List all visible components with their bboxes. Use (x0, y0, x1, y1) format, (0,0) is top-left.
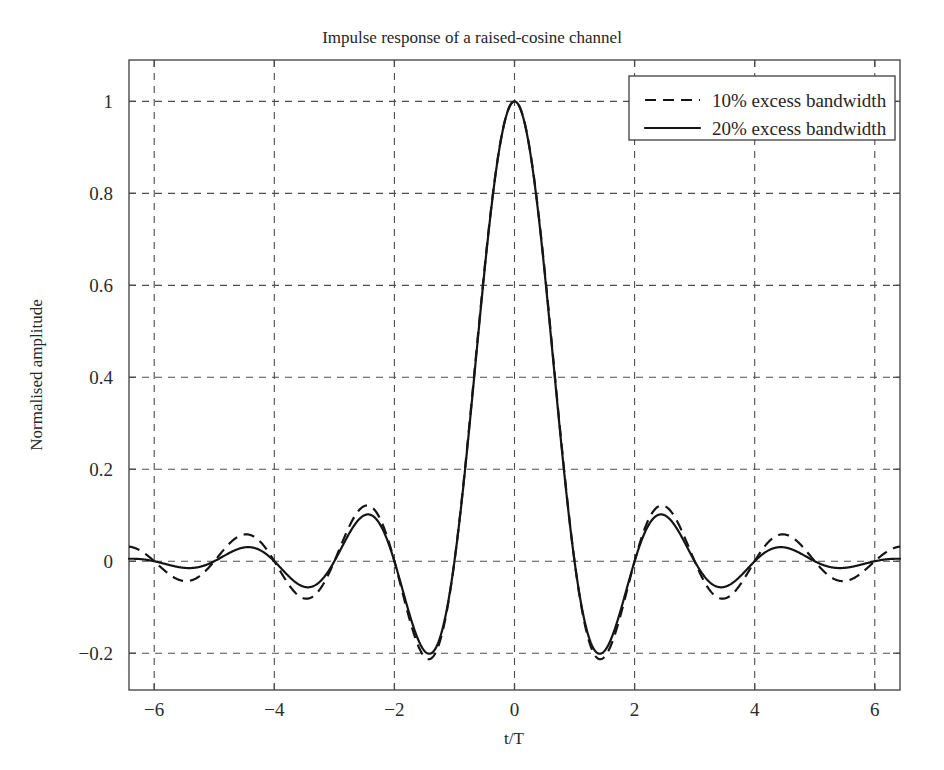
x-axis-label: t/T (504, 729, 524, 748)
x-tick-label: −4 (264, 699, 285, 720)
legend-label-10pct: 10% excess bandwidth (712, 90, 887, 111)
y-tick-label: 1 (104, 91, 114, 112)
y-tick-label: 0.8 (89, 183, 113, 204)
y-tick-label: 0 (104, 551, 114, 572)
y-axis-label: Normalised amplitude (27, 299, 46, 451)
x-tick-labels: −6−4−20246 (144, 699, 879, 720)
series-line-10pct (129, 101, 900, 659)
x-tick-label: 0 (510, 699, 520, 720)
chart-canvas: −6−4−20246 −0.200.20.40.60.81 Impulse re… (0, 0, 944, 770)
x-tick-label: −6 (144, 699, 164, 720)
y-tick-label: 0.2 (89, 459, 113, 480)
chart-title: Impulse response of a raised-cosine chan… (322, 28, 622, 47)
y-tick-label: 0.6 (89, 275, 113, 296)
grid-lines (129, 60, 900, 690)
y-tick-labels: −0.200.20.40.60.81 (79, 91, 114, 664)
chart-figure: −6−4−20246 −0.200.20.40.60.81 Impulse re… (0, 0, 944, 770)
x-tick-label: 2 (630, 699, 640, 720)
y-tick-label: 0.4 (89, 367, 113, 388)
legend-label-20pct: 20% excess bandwidth (712, 118, 887, 139)
x-tick-label: 4 (750, 699, 760, 720)
y-tick-label: −0.2 (79, 643, 113, 664)
chart-legend[interactable]: 10% excess bandwidth 20% excess bandwidt… (629, 76, 895, 140)
x-tick-label: 6 (870, 699, 880, 720)
x-tick-label: −2 (384, 699, 404, 720)
